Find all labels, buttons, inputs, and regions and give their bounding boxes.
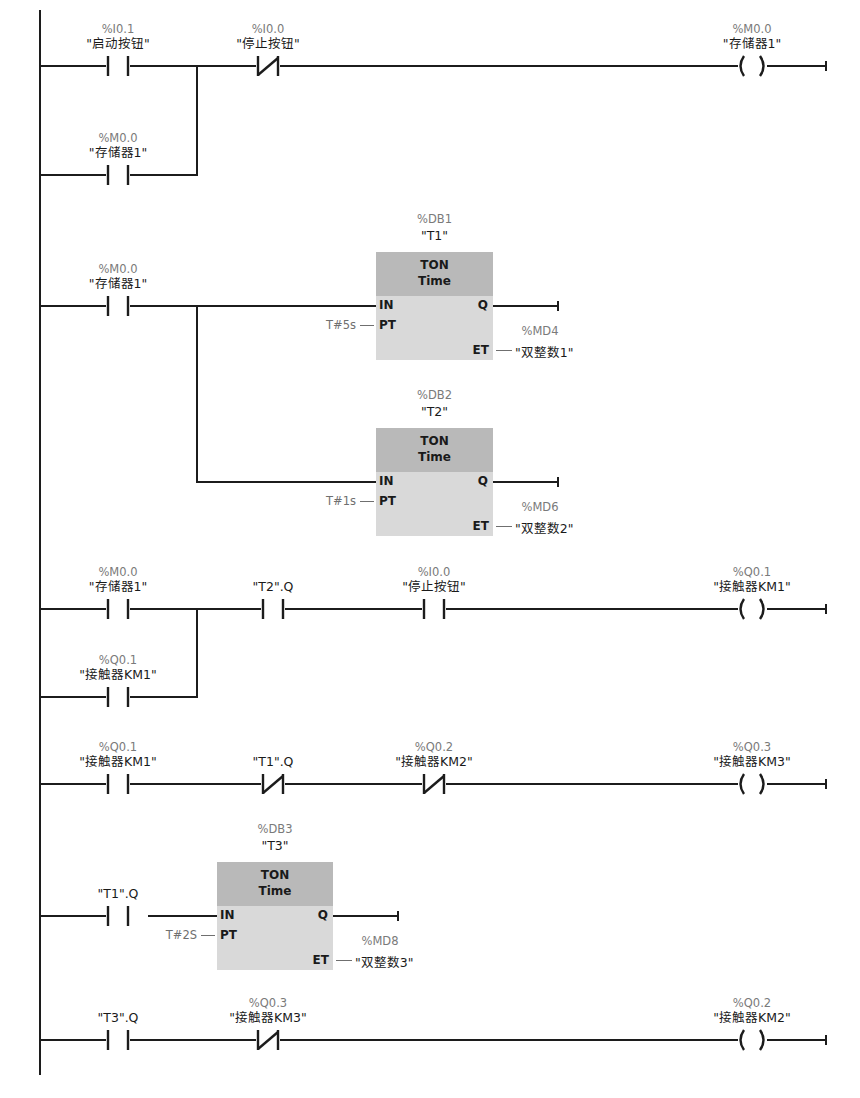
normally-open-contact-icon [261,599,285,619]
rung-wire [40,65,106,67]
timer-q-wire [493,481,558,483]
timer-instance-name: "T2" [421,405,448,419]
rung-end-tick [825,1035,827,1045]
timer-in-wire [197,305,376,307]
et-symbol: "双整数1" [515,342,573,361]
rung-wire [767,783,826,785]
timer-data-type: Time [217,884,333,899]
operand-symbol: "存储器1" [89,277,147,291]
branch-wire [196,306,198,483]
normally-open-contact-icon [106,56,130,76]
pin-in: IN [379,474,394,488]
pin-in: IN [220,908,235,922]
normally-open-contact-icon [106,599,130,619]
normally-closed-contact-icon [256,56,280,76]
rung-wire [130,783,261,785]
ton-timer-block-t2[interactable]: TONTimeINPTQET [376,428,493,536]
operand-symbol: "接触器KM1" [713,580,790,594]
pt-preset-value[interactable]: T#2S [166,928,197,942]
pt-param-line [360,325,374,326]
rung-wire [130,305,197,307]
et-symbol: "双整数3" [355,952,413,971]
operand-symbol: "T1".Q [98,887,139,901]
operand-symbol: "T1".Q [253,755,294,769]
ton-timer-block-t1[interactable]: TONTimeINPTQET [376,252,493,360]
rung-wire [285,783,422,785]
timer-type: TON [217,868,333,883]
rung-wire [40,608,106,610]
rung-wire [446,608,738,610]
rung-wire [40,1039,106,1041]
normally-open-contact-icon [106,165,130,185]
rung-wire [130,1039,256,1041]
branch-wire [196,609,198,698]
operand-address: %M0.0 [98,131,137,145]
operand-symbol: "接触器KM3" [713,755,790,769]
pin-et: ET [473,343,489,357]
pin-q: Q [478,474,488,488]
output-coil-icon [736,1029,768,1051]
rung-end-tick [825,604,827,614]
timer-instance-address: %DB3 [258,822,293,836]
rung-end-tick [825,779,827,789]
operand-address: %Q0.3 [733,740,771,754]
normally-open-contact-icon [106,906,130,926]
normally-open-contact-icon [106,687,130,707]
operand-address: %Q0.2 [733,996,771,1010]
timer-q-wire [333,915,398,917]
branch-wire [40,696,106,698]
q-end-tick [397,911,399,921]
pt-preset-value[interactable]: T#1s [326,494,356,508]
output-coil-icon [736,55,768,77]
normally-open-contact-icon [106,774,130,794]
timer-data-type: Time [376,274,493,289]
operand-address: %Q0.2 [415,740,453,754]
operand-symbol: "接触器KM2" [713,1011,790,1025]
et-param-line [496,350,512,351]
pt-param-line [201,935,215,936]
timer-instance-address: %DB2 [417,388,452,402]
operand-address: %M0.0 [732,22,771,36]
pin-pt: PT [379,494,396,508]
rung-wire [767,65,826,67]
operand-symbol: "存储器1" [89,580,147,594]
operand-address: %I0.1 [102,22,135,36]
rung-wire [40,915,106,917]
rung-wire [767,608,826,610]
branch-wire [40,174,106,176]
operand-address: %Q0.3 [249,996,287,1010]
rung-wire [280,1039,738,1041]
rung-wire [130,65,256,67]
operand-symbol: "启动按钮" [86,37,150,51]
pin-et: ET [313,953,329,967]
rung-end-tick [825,61,827,71]
normally-closed-contact-icon [422,774,446,794]
operand-symbol: "停止按钮" [236,37,300,51]
normally-closed-contact-icon [261,774,285,794]
q-end-tick [557,477,559,487]
pin-pt: PT [379,318,396,332]
branch-wire [196,66,198,176]
rung-wire [767,1039,826,1041]
operand-address: %M0.0 [98,262,137,276]
timer-in-wire [197,481,376,483]
timer-instance-name: "T1" [421,229,448,243]
normally-closed-contact-icon [256,1030,280,1050]
pin-pt: PT [220,928,237,942]
rung-wire [40,783,106,785]
ton-timer-block-t3[interactable]: TONTimeINPTQET [217,862,333,970]
output-coil-icon [736,598,768,620]
output-coil-icon [736,773,768,795]
pt-preset-value[interactable]: T#5s [326,318,356,332]
timer-instance-address: %DB1 [417,212,452,226]
timer-data-type: Time [376,450,493,465]
et-address: %MD4 [521,324,558,338]
operand-symbol: "接触器KM1" [79,668,156,682]
et-symbol: "双整数2" [515,518,573,537]
pin-et: ET [473,519,489,533]
pin-q: Q [478,298,488,312]
rung-wire [40,305,106,307]
pin-q: Q [318,908,328,922]
operand-address: %Q0.1 [99,653,137,667]
operand-symbol: "存储器1" [89,146,147,160]
